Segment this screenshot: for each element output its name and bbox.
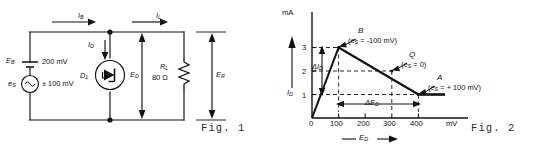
- label-source-signal-symbol: eS: [8, 80, 16, 88]
- battery-symbol: [22, 62, 38, 75]
- chart-point-note-q: (eS = 0): [401, 61, 426, 69]
- chart-xticklabel-0: 0: [309, 119, 313, 128]
- chart-point-label-b: B: [358, 27, 363, 35]
- node-bottom-junction: [107, 117, 112, 122]
- label-resistor-value: 80 Ω: [152, 74, 168, 81]
- fig2-chart-panel: mA mV 0 100 200 300 400 1 2 3 ID ED B (e…: [270, 0, 540, 155]
- label-current-ib: IB: [78, 12, 84, 20]
- label-voltage-er: ER: [216, 71, 225, 79]
- current-arrow-il: [132, 19, 168, 26]
- chart-xticklabel-400: 400: [410, 119, 423, 128]
- chart-y-unit: mA: [282, 8, 293, 17]
- chart-series-load-line: [312, 48, 445, 119]
- chart-yticklabel-2: 2: [302, 67, 306, 76]
- label-voltage-ed: ED: [130, 71, 139, 79]
- label-source-bias-value: 200 mV: [42, 58, 67, 65]
- resistor-symbol: [179, 58, 189, 92]
- figure-root: IB IL ID EB 200 mV eS ± 100 mV D1 ED ER …: [0, 0, 540, 155]
- label-source-signal-value: ± 100 mV: [42, 80, 74, 87]
- chart-annotation-label-delta-ed: ΔED: [365, 99, 379, 107]
- fig1-circuit-panel: IB IL ID EB 200 mV eS ± 100 mV D1 ED ER …: [0, 0, 270, 155]
- chart-x-unit: mV: [446, 119, 457, 128]
- tunnel-diode-symbol: [96, 61, 125, 90]
- label-resistor-symbol: RL: [160, 63, 168, 71]
- chart-xticklabel-100: 100: [330, 119, 343, 128]
- chart-yticklabel-1: 1: [302, 91, 306, 100]
- chart-point-note-a: (eS = + 100 mV): [428, 84, 481, 92]
- chart-xticklabel-300: 300: [383, 119, 396, 128]
- chart-point-note-b: (eS = -100 mV): [348, 37, 397, 45]
- fig2-caption: Fig. 2: [471, 122, 515, 134]
- chart-point-label-a: A: [437, 74, 442, 82]
- fig1-caption: Fig. 1: [201, 122, 245, 134]
- chart-ylabel: ID: [287, 89, 293, 97]
- chart-yticklabel-3: 3: [302, 43, 306, 52]
- chart-ylabel-arrow: [288, 36, 295, 88]
- chart-annotation-label-delta-id: ΔID: [312, 63, 323, 71]
- label-diode: D1: [80, 72, 88, 80]
- chart-point-label-q: Q: [409, 51, 415, 59]
- current-arrow-id: [102, 40, 109, 60]
- label-source-bias-symbol: EB: [6, 57, 15, 65]
- chart-axes: [312, 12, 468, 118]
- chart-xticklabel-200: 200: [357, 119, 370, 128]
- current-arrow-ib: [52, 19, 96, 26]
- node-top-junction: [107, 29, 112, 34]
- chart-xlabel-arrow: [342, 135, 398, 142]
- voltage-arrow-ed: [139, 33, 146, 119]
- chart-xlabel: ED: [359, 134, 368, 142]
- label-current-il: IL: [156, 12, 161, 20]
- ac-source-symbol: [22, 76, 39, 93]
- label-current-id: ID: [88, 41, 94, 49]
